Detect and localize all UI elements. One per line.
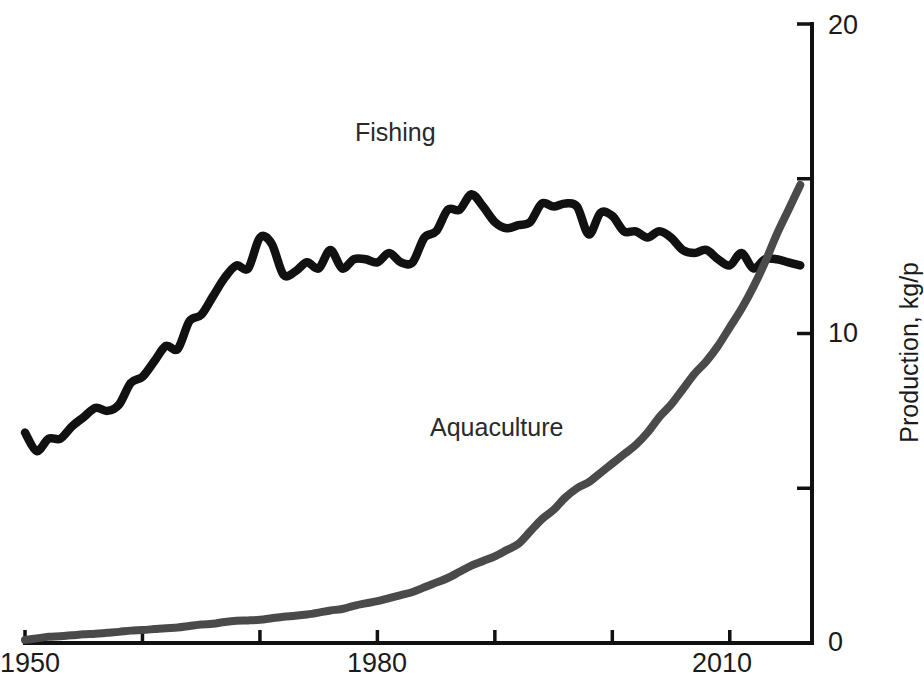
y-tick-label-10: 10: [828, 318, 858, 349]
series-label-aquaculture: Aquaculture: [430, 413, 563, 442]
y-tick-label-0: 0: [828, 627, 843, 658]
y-tick-label-20: 20: [828, 10, 858, 41]
y-axis-ticks: [797, 24, 812, 643]
y-axis-title: Production, kg/p: [895, 262, 924, 443]
x-tick-label-2010: 2010: [692, 648, 752, 679]
series-line-fishing: [25, 194, 800, 451]
series-label-fishing: Fishing: [355, 118, 436, 147]
x-tick-label-1950: 1950: [0, 648, 60, 679]
x-tick-label-1980: 1980: [347, 648, 407, 679]
